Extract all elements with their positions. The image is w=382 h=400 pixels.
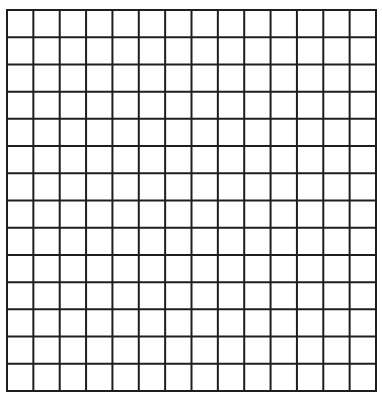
square-grid	[0, 0, 382, 400]
